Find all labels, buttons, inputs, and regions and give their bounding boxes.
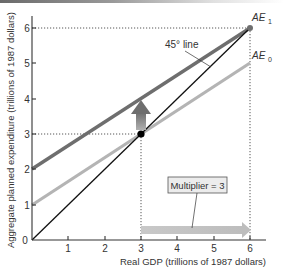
- ae1-label-sub: 1: [268, 18, 272, 25]
- y-tick-2: 2: [24, 164, 30, 175]
- y-axis-title: Aggregate planned expenditure (trillions…: [5, 12, 16, 248]
- ae1-label: AE 1: [251, 12, 272, 25]
- ae0-label-sub: 0: [268, 56, 272, 63]
- ae1-line: [32, 28, 250, 169]
- ae0-label: AE 0: [251, 50, 272, 63]
- x-tick-1: 1: [65, 243, 71, 254]
- y-tick-4: 4: [24, 94, 30, 105]
- equilibrium-point-new: [247, 25, 253, 31]
- gdp-change-arrow: [141, 222, 251, 238]
- multiplier-callout: Multiplier = 3: [168, 177, 227, 228]
- y-tick-3: 3: [24, 129, 30, 140]
- chart-canvas: 0 1 2 3 4 5 6 1 2 3 4 5 6 Real GDP (tril…: [0, 0, 284, 276]
- y-tick-0: 0: [22, 235, 28, 246]
- line-45-leader: [185, 51, 211, 67]
- x-tick-6: 6: [247, 243, 253, 254]
- x-tick-labels: 1 2 3 4 5 6: [65, 243, 253, 254]
- x-tick-2: 2: [102, 243, 108, 254]
- x-tick-4: 4: [174, 243, 180, 254]
- y-tick-labels: 0 1 2 3 4 5 6: [22, 23, 30, 246]
- equilibrium-point-initial: [137, 130, 144, 137]
- x-tick-5: 5: [211, 243, 217, 254]
- y-tick-1: 1: [24, 200, 30, 211]
- multiplier-leader: [192, 193, 197, 228]
- y-tick-6: 6: [24, 23, 30, 34]
- ae1-label-main: AE: [251, 12, 266, 23]
- y-tick-5: 5: [24, 58, 30, 69]
- x-axis-title: Real GDP (trillions of 1987 dollars): [120, 256, 266, 267]
- ae0-label-main: AE: [251, 50, 266, 61]
- line-45-label: 45° line: [165, 39, 199, 50]
- x-tick-3: 3: [138, 243, 144, 254]
- multiplier-label: Multiplier = 3: [170, 180, 224, 191]
